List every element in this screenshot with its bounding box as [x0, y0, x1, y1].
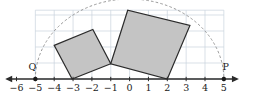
axis-tick-label: 2 — [164, 82, 170, 93]
axis-tick-label: 4 — [202, 82, 208, 93]
axis-tick-label: 1 — [145, 82, 151, 93]
axis-tick-label: −4 — [47, 82, 61, 93]
axis-tick-label: −3 — [66, 82, 80, 93]
point-label-q: Q — [29, 61, 37, 72]
point-marker-p — [222, 77, 226, 81]
axis-tick-label: 0 — [127, 82, 133, 93]
axis-tick-label: 5 — [221, 82, 227, 93]
axis-tick-label: −2 — [85, 82, 99, 93]
axis-tick-label: −5 — [28, 82, 42, 93]
point-marker-q — [33, 77, 37, 81]
geometry-figure: −6−5−4−3−2−1012345 QP — [0, 0, 258, 104]
axis-tick-label: 3 — [183, 82, 189, 93]
figure-canvas: −6−5−4−3−2−1012345 QP — [0, 0, 258, 104]
axis-tick-label: −6 — [9, 82, 23, 93]
axis-tick-label: −1 — [104, 82, 118, 93]
point-label-p: P — [223, 61, 230, 72]
